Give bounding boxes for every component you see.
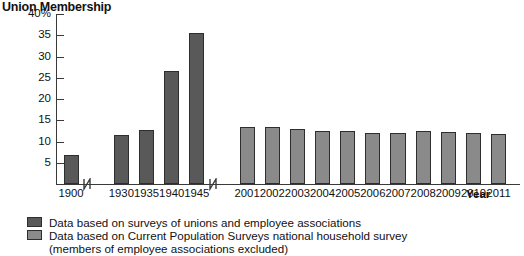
bars-layer — [56, 14, 520, 184]
bar-1945 — [189, 33, 204, 184]
x-axis-line — [56, 184, 520, 185]
x-axis-label-2002: 2002 — [260, 187, 285, 200]
x-axis-label-2004: 2004 — [310, 187, 335, 200]
chart-title: Union Membership — [2, 0, 111, 14]
bar-2003 — [290, 129, 305, 184]
axis-break-mark — [83, 178, 96, 192]
bar-2010 — [466, 133, 481, 184]
x-axis-label-2009: 2009 — [436, 187, 461, 200]
y-axis-tick-label: 35 — [38, 28, 51, 41]
bar-2009 — [441, 132, 456, 184]
bar-2008 — [416, 131, 431, 184]
x-axis-label-2006: 2006 — [360, 187, 385, 200]
legend-label-union: Data based on surveys of unions and empl… — [49, 216, 361, 229]
x-axis-label-1935: 1935 — [134, 187, 159, 200]
legend-swatch-cps — [27, 230, 42, 240]
x-axis-label-1930: 1930 — [109, 187, 134, 200]
legend-label-cps: Data based on Current Population Surveys… — [49, 229, 407, 242]
x-axis-label-2008: 2008 — [411, 187, 436, 200]
y-axis-tick-label: 10 — [38, 135, 51, 148]
legend-item-cps: Data based on Current Population Surveys… — [27, 229, 517, 242]
bar-2005 — [340, 131, 355, 184]
bar-1935 — [139, 130, 154, 184]
legend-note: (members of employee associations exclud… — [49, 242, 517, 255]
axis-break-mark — [209, 178, 222, 192]
x-axis-label-2007: 2007 — [385, 187, 410, 200]
bar-2002 — [265, 127, 280, 184]
y-axis-tick-label: 25 — [38, 71, 51, 84]
bar-1940 — [164, 71, 179, 184]
legend-item-union: Data based on surveys of unions and empl… — [27, 216, 517, 229]
legend-swatch-union — [27, 217, 42, 227]
plot-area: 40%3530252015105 19001930193519401945200… — [56, 14, 520, 184]
bar-2004 — [315, 131, 330, 184]
x-axis-label-2005: 2005 — [335, 187, 360, 200]
y-axis-tick-label: 5 — [45, 156, 51, 169]
x-axis-label-2003: 2003 — [285, 187, 310, 200]
x-axis-label-1945: 1945 — [184, 187, 209, 200]
x-axis-label-1940: 1940 — [159, 187, 184, 200]
bar-2001 — [240, 127, 255, 184]
y-axis-tick-label: 40% — [28, 7, 51, 20]
y-axis-tick-label: 30 — [38, 50, 51, 63]
y-axis-tick-label: 15 — [38, 113, 51, 126]
bar-1930 — [114, 135, 129, 184]
bar-2006 — [365, 133, 380, 184]
x-axis-title: Year — [466, 188, 490, 200]
y-axis-tick-label: 20 — [38, 92, 51, 105]
x-axis-label-2001: 2001 — [235, 187, 260, 200]
bar-1900 — [64, 155, 79, 184]
bar-2011 — [491, 134, 506, 184]
bar-2007 — [390, 133, 405, 184]
x-axis-label-1900: 1900 — [59, 187, 84, 200]
chart-container: Union Membership 40%3530252015105 190019… — [0, 0, 524, 256]
chart-legend: Data based on surveys of unions and empl… — [27, 216, 517, 255]
